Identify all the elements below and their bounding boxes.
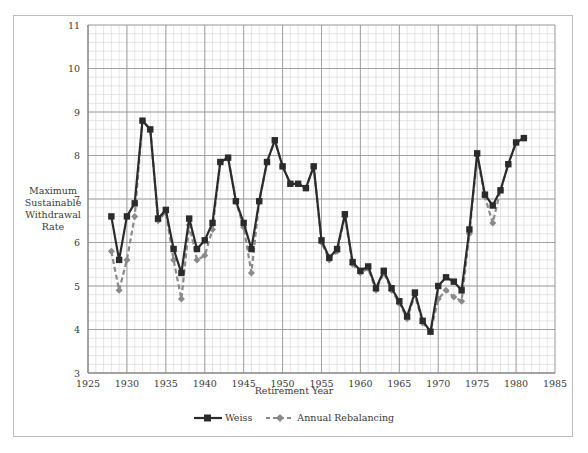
y-tick-label: 10	[68, 63, 80, 74]
data-point-marker	[248, 269, 255, 276]
legend: Weiss Annual Rebalancing	[0, 412, 588, 423]
data-point-marker	[287, 181, 293, 187]
data-point-marker	[427, 328, 433, 334]
data-point-marker	[170, 246, 176, 252]
data-point-marker	[139, 118, 145, 124]
y-tick-label: 3	[74, 368, 80, 379]
data-point-marker	[443, 287, 450, 294]
data-point-marker	[490, 202, 496, 208]
data-point-marker	[349, 259, 355, 265]
series-annual-rebalancing	[108, 117, 528, 335]
data-point-marker	[365, 263, 371, 269]
data-point-marker	[451, 278, 457, 284]
y-tick-label: 4	[74, 324, 80, 335]
data-point-marker	[388, 285, 394, 291]
y-tick-label: 9	[74, 107, 80, 118]
data-point-marker	[373, 285, 379, 291]
x-axis-label: Retirement Year	[0, 385, 588, 396]
data-point-marker	[178, 296, 185, 303]
data-point-marker	[225, 154, 231, 160]
data-point-marker	[248, 246, 254, 252]
data-point-marker	[194, 246, 200, 252]
data-point-marker	[482, 191, 488, 197]
data-point-marker	[458, 287, 464, 293]
data-point-marker	[334, 246, 340, 252]
legend-label-annual-rebalancing: Annual Rebalancing	[297, 412, 394, 423]
data-point-marker	[217, 159, 223, 165]
data-point-marker	[155, 215, 161, 221]
data-point-marker	[233, 198, 239, 204]
data-point-marker	[264, 159, 270, 165]
data-point-marker	[116, 287, 123, 294]
dashed-diamond-line-icon	[266, 413, 294, 423]
data-point-marker	[311, 163, 317, 169]
data-point-marker	[404, 313, 410, 319]
data-point-marker	[123, 256, 130, 263]
data-point-marker	[279, 163, 285, 169]
data-point-marker	[303, 185, 309, 191]
legend-item-weiss: Weiss	[194, 412, 252, 423]
y-tick-label: 8	[74, 150, 80, 161]
data-point-marker	[521, 135, 527, 141]
y-axis-label-line: Withdrawal	[18, 209, 88, 221]
data-point-marker	[435, 283, 441, 289]
data-point-marker	[178, 270, 184, 276]
y-axis-label-line: Sustainable	[18, 197, 88, 209]
series-weiss	[108, 118, 527, 335]
data-point-marker	[419, 318, 425, 324]
data-point-marker	[186, 215, 192, 221]
data-point-marker	[163, 207, 169, 213]
data-point-marker	[131, 213, 138, 220]
data-point-marker	[202, 237, 208, 243]
y-tick-label: 6	[74, 237, 80, 248]
data-point-marker	[256, 198, 262, 204]
data-point-marker	[505, 161, 511, 167]
data-point-marker	[240, 220, 246, 226]
y-axis-label-line: Maximum	[18, 185, 88, 197]
data-point-marker	[209, 220, 215, 226]
data-point-marker	[326, 255, 332, 261]
legend-item-annual-rebalancing: Annual Rebalancing	[266, 412, 394, 423]
y-axis-label-line: Rate	[18, 221, 88, 233]
y-tick-label: 11	[68, 20, 80, 31]
data-point-marker	[132, 200, 138, 206]
data-point-marker	[116, 257, 122, 263]
data-point-marker	[381, 268, 387, 274]
legend-label-weiss: Weiss	[225, 412, 252, 423]
data-point-marker	[295, 181, 301, 187]
data-point-marker	[474, 150, 480, 156]
data-point-marker	[443, 274, 449, 280]
data-point-marker	[108, 248, 115, 255]
y-tick-label: 5	[74, 281, 80, 292]
data-point-marker	[108, 213, 114, 219]
data-point-marker	[318, 237, 324, 243]
data-point-marker	[147, 126, 153, 132]
data-point-marker	[412, 289, 418, 295]
y-axis-label: Maximum Sustainable Withdrawal Rate	[18, 185, 88, 233]
data-point-marker	[513, 139, 519, 145]
data-point-marker	[396, 298, 402, 304]
data-point-marker	[466, 226, 472, 232]
data-point-marker	[272, 137, 278, 143]
data-point-marker	[124, 213, 130, 219]
data-point-marker	[342, 211, 348, 217]
data-point-marker	[497, 187, 503, 193]
solid-square-line-icon	[194, 413, 222, 423]
data-point-marker	[357, 268, 363, 274]
